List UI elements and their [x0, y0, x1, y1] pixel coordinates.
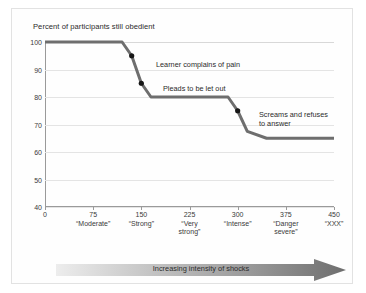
data-point-marker-2 — [235, 108, 240, 113]
x-tick-label-75: 75“Moderate” — [67, 211, 119, 228]
x-tick-descriptor: “Danger severe” — [260, 220, 312, 237]
x-tick-voltage: 225 — [164, 211, 216, 220]
data-point-marker-0 — [129, 53, 134, 58]
x-tick-voltage: 0 — [19, 211, 71, 220]
x-tick-mark-150 — [141, 207, 142, 210]
y-tick-label-90: 90 — [34, 66, 42, 73]
data-point-marker-1 — [139, 81, 144, 86]
x-tick-mark-375 — [286, 207, 287, 210]
x-tick-mark-300 — [238, 207, 239, 210]
y-tick-label-80: 80 — [34, 94, 42, 101]
x-tick-descriptor: “Moderate” — [67, 220, 119, 229]
x-tick-voltage: 75 — [67, 211, 119, 220]
ann-screams: Screams and refuses to answer — [259, 110, 328, 128]
y-tick-label-70: 70 — [34, 121, 42, 128]
x-tick-descriptor: “Strong” — [115, 220, 167, 229]
x-tick-mark-75 — [93, 207, 94, 210]
x-tick-mark-0 — [45, 207, 46, 210]
x-tick-voltage: 300 — [212, 211, 264, 220]
figure-panel: Percent of participants still obedient 1… — [11, 8, 353, 284]
increasing-intensity-arrow-icon — [56, 259, 346, 281]
x-tick-voltage: 375 — [260, 211, 312, 220]
x-tick-voltage: 450 — [308, 211, 360, 220]
ann-pain: Learner complains of pain — [156, 60, 240, 69]
x-tick-label-0: 0 — [19, 211, 71, 220]
x-tick-label-450: 450“XXX” — [308, 211, 360, 228]
x-tick-mark-450 — [334, 207, 335, 210]
y-tick-label-100: 100 — [30, 39, 42, 46]
x-tick-label-150: 150“Strong” — [115, 211, 167, 228]
chart-title: Percent of participants still obedient — [33, 22, 155, 31]
x-tick-label-375: 375“Danger severe” — [260, 211, 312, 237]
y-tick-label-40: 40 — [34, 204, 42, 211]
x-tick-voltage: 150 — [115, 211, 167, 220]
ann-pleads: Pleads to be let out — [163, 84, 225, 93]
y-tick-label-60: 60 — [34, 149, 42, 156]
x-tick-descriptor: “XXX” — [308, 220, 360, 229]
y-tick-label-50: 50 — [34, 176, 42, 183]
x-tick-label-300: 300“Intense” — [212, 211, 264, 228]
x-tick-descriptor: “Intense” — [212, 220, 264, 229]
x-tick-label-225: 225“Very strong” — [164, 211, 216, 237]
x-tick-mark-225 — [190, 207, 191, 210]
x-tick-descriptor: “Very strong” — [164, 220, 216, 237]
